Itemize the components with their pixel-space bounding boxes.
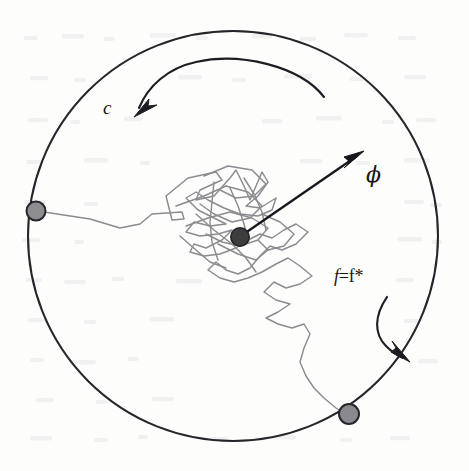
rotation-speed-label: c (103, 98, 111, 117)
phi-radial-arrow (238, 151, 364, 238)
frequency-label: f=f* (334, 267, 363, 285)
left-boundary-particle (27, 202, 46, 221)
angle-phi-label: ϕ (366, 164, 381, 186)
diagram-svg (0, 0, 469, 471)
center-particle (231, 228, 249, 246)
bottom-boundary-particle (339, 404, 359, 424)
c-rotation-arc-arrow (134, 59, 324, 117)
f-rotation-arc-arrow (377, 297, 410, 362)
figure-canvas: c ϕ f=f* (0, 0, 469, 471)
frequency-label-rest-part: =f* (339, 266, 364, 286)
